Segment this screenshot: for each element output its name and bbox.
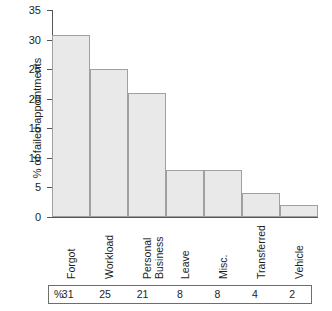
- bar: [128, 93, 166, 217]
- x-axis-label: Leave: [180, 217, 192, 279]
- y-tick-label-35: 35: [29, 4, 41, 16]
- bar: [242, 193, 280, 217]
- bar: [280, 205, 318, 217]
- x-axis-label: Workload: [104, 217, 116, 279]
- data-table-cell: 4: [236, 286, 273, 303]
- data-table-cell: 8: [199, 286, 236, 303]
- bar: [90, 69, 128, 217]
- data-value-table: % 3125218842: [48, 285, 312, 304]
- y-tick-label-0: 0: [35, 211, 41, 223]
- x-axis-label-line: Business: [154, 217, 166, 279]
- x-axis-label: PersonalBusiness: [142, 217, 165, 279]
- x-axis-label-line: Misc.: [218, 217, 230, 279]
- y-tick-label-25: 25: [29, 63, 41, 75]
- data-table-cell: 2: [274, 286, 311, 303]
- data-table-cell: 21: [124, 286, 161, 303]
- y-tick-label-10: 10: [29, 152, 41, 164]
- y-tick-0: 0: [47, 217, 52, 218]
- y-tick-label-20: 20: [29, 93, 41, 105]
- bar-chart: % of failed appointments 05101520253035 …: [0, 0, 332, 311]
- bar-series: [52, 10, 318, 217]
- x-axis-label-line: Personal: [142, 217, 154, 279]
- y-tick-label-30: 30: [29, 34, 41, 46]
- x-axis-category-labels: ForgotWorkloadPersonalBusinessLeaveMisc.…: [52, 219, 318, 281]
- x-axis-label: Misc.: [218, 217, 230, 279]
- data-table-cell: 31: [49, 286, 86, 303]
- x-axis-label: Forgot: [66, 217, 78, 279]
- plot-area: 05101520253035: [52, 10, 318, 217]
- x-axis-label-line: Transferred: [256, 217, 268, 279]
- y-tick-label-5: 5: [35, 181, 41, 193]
- bar: [204, 170, 242, 217]
- x-axis-label-line: Vehicle: [294, 217, 306, 279]
- x-axis-label-line: Forgot: [66, 217, 78, 279]
- x-axis-label-line: Leave: [180, 217, 192, 279]
- x-axis-label: Vehicle: [294, 217, 306, 279]
- y-tick-label-15: 15: [29, 122, 41, 134]
- bar: [166, 170, 204, 217]
- data-table-cell: 25: [86, 286, 123, 303]
- x-axis-label: Transferred: [256, 217, 268, 279]
- data-table-cell: 8: [161, 286, 198, 303]
- x-axis-label-line: Workload: [104, 217, 116, 279]
- bar: [52, 35, 90, 217]
